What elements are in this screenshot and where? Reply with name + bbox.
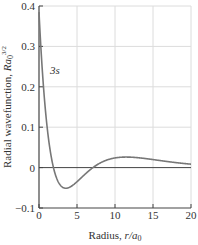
x-tick-label: 0	[36, 209, 42, 221]
x-tick-label: 15	[148, 209, 160, 221]
gridlines	[39, 6, 191, 208]
y-tick-label: 0.2	[21, 81, 35, 93]
y-tick-label: 0	[30, 162, 36, 174]
x-tick-label: 20	[186, 209, 198, 221]
x-tick-label: 10	[110, 209, 122, 221]
chart: 05101520−0.100.10.20.30.4 3s Radius, r/a…	[0, 0, 197, 245]
tick-labels: 05101520−0.100.10.20.30.4	[15, 0, 197, 221]
y-tick-label: 0.4	[21, 0, 35, 12]
x-tick-label: 5	[74, 209, 80, 221]
y-tick-label: 0.3	[21, 40, 35, 52]
y-tick-label: −0.1	[15, 202, 35, 214]
y-tick-label: 0.1	[21, 121, 35, 133]
y-axis-label: Radial wavefunction, Ra03/2	[0, 45, 15, 168]
x-axis-label: Radius, r/a0	[89, 229, 142, 243]
curve-label-3s: 3s	[49, 64, 60, 76]
